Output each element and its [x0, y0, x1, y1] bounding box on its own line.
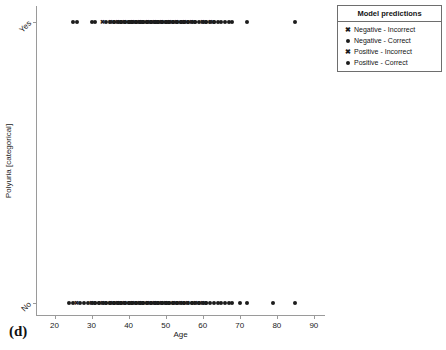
x-tick-label: 50	[161, 321, 170, 330]
data-point	[160, 301, 164, 305]
data-point	[123, 301, 127, 305]
data-point	[127, 20, 131, 24]
data-point	[104, 301, 108, 305]
data-point	[149, 20, 153, 24]
data-point	[141, 301, 145, 305]
data-point	[123, 20, 127, 24]
data-point: ✖	[167, 20, 172, 25]
data-point	[134, 301, 138, 305]
data-point	[164, 20, 168, 24]
data-point	[156, 20, 160, 24]
data-point: ✖	[100, 20, 105, 25]
data-point	[130, 301, 134, 305]
data-point: ✖	[171, 301, 176, 306]
panel-label: (d)	[9, 323, 27, 340]
data-point	[193, 20, 197, 24]
data-point	[141, 301, 145, 305]
x-tick-mark	[129, 316, 130, 319]
data-point	[171, 301, 175, 305]
data-point	[145, 301, 149, 305]
data-point: ✖	[130, 301, 135, 306]
data-point	[112, 301, 116, 305]
cross-marker-icon: ✖	[341, 46, 354, 57]
data-point	[112, 301, 116, 305]
data-point	[145, 20, 149, 24]
data-point	[179, 20, 183, 24]
data-point	[108, 20, 112, 24]
data-point	[182, 20, 186, 24]
data-point: ✖	[89, 301, 94, 306]
data-point	[138, 301, 142, 305]
y-tick-label: Yes	[18, 19, 34, 35]
data-point: ✖	[159, 301, 164, 306]
data-point	[127, 301, 131, 305]
legend-item[interactable]: ✖Negative - Incorrect	[338, 24, 441, 35]
data-point	[108, 301, 112, 305]
data-point	[197, 20, 201, 24]
data-point	[208, 20, 212, 24]
data-point	[78, 301, 82, 305]
data-point: ✖	[137, 301, 142, 306]
data-point	[141, 20, 145, 24]
legend-item[interactable]: ✖Positive - Incorrect	[338, 46, 441, 57]
data-point	[212, 20, 216, 24]
data-point	[71, 20, 75, 24]
data-point	[138, 20, 142, 24]
data-point	[153, 20, 157, 24]
legend-item[interactable]: Negative - Correct	[338, 35, 441, 46]
x-tick-mark	[277, 316, 278, 319]
legend-item[interactable]: Positive - Correct	[338, 57, 441, 68]
data-point	[167, 20, 171, 24]
data-point	[149, 301, 153, 305]
data-point	[227, 301, 231, 305]
y-axis-title: Polyuria [categorical]	[4, 124, 13, 198]
data-point	[119, 301, 123, 305]
data-point	[164, 301, 168, 305]
data-point: ✖	[108, 20, 113, 25]
y-tick-mark	[33, 303, 36, 304]
dot-marker-icon	[341, 35, 354, 46]
data-point	[156, 301, 160, 305]
data-point	[167, 301, 171, 305]
data-point	[212, 20, 216, 24]
data-point	[197, 301, 201, 305]
data-point	[156, 20, 160, 24]
data-point	[127, 301, 131, 305]
data-point	[223, 301, 227, 305]
data-point	[127, 20, 131, 24]
data-point	[197, 301, 201, 305]
data-point: ✖	[130, 20, 135, 25]
y-tick-mark	[33, 22, 36, 23]
data-point	[186, 20, 190, 24]
x-tick-mark	[240, 316, 241, 319]
data-point	[149, 20, 153, 24]
data-point	[201, 301, 205, 305]
data-point: ✖	[193, 301, 198, 306]
data-point	[175, 20, 179, 24]
x-axis-spine	[36, 315, 325, 316]
data-point	[93, 20, 97, 24]
data-point	[130, 20, 134, 24]
data-point	[134, 301, 138, 305]
data-point	[160, 20, 164, 24]
data-point	[190, 20, 194, 24]
data-point	[75, 20, 79, 24]
data-point	[171, 20, 175, 24]
data-point	[116, 20, 120, 24]
legend-item-label: Positive - Incorrect	[354, 48, 412, 55]
data-point	[186, 301, 190, 305]
data-point: ✖	[182, 20, 187, 25]
data-point: ✖	[115, 20, 120, 25]
data-point	[160, 301, 164, 305]
x-tick-label: 60	[198, 321, 207, 330]
data-point	[141, 20, 145, 24]
data-point	[138, 20, 142, 24]
data-point: ✖	[208, 20, 213, 25]
data-point	[141, 301, 145, 305]
legend-item-label: Positive - Correct	[354, 59, 408, 66]
data-point	[204, 20, 208, 24]
data-point	[123, 301, 127, 305]
data-point	[116, 301, 120, 305]
data-point	[149, 301, 153, 305]
data-point	[238, 301, 242, 305]
